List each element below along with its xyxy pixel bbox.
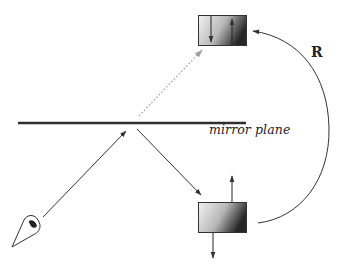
incident-ray-arrow: [43, 131, 126, 217]
image-box: [199, 16, 247, 46]
mirror-plane-label: mirror plane: [209, 122, 290, 137]
object-box: [199, 176, 247, 258]
eye-icon: [12, 216, 40, 248]
figure-caption-cutoff: [10, 259, 340, 267]
reflected-ray-arrow: [137, 129, 201, 195]
operation-r-label: R: [311, 44, 323, 60]
virtual-ray-dotted-arrow: [139, 50, 202, 116]
